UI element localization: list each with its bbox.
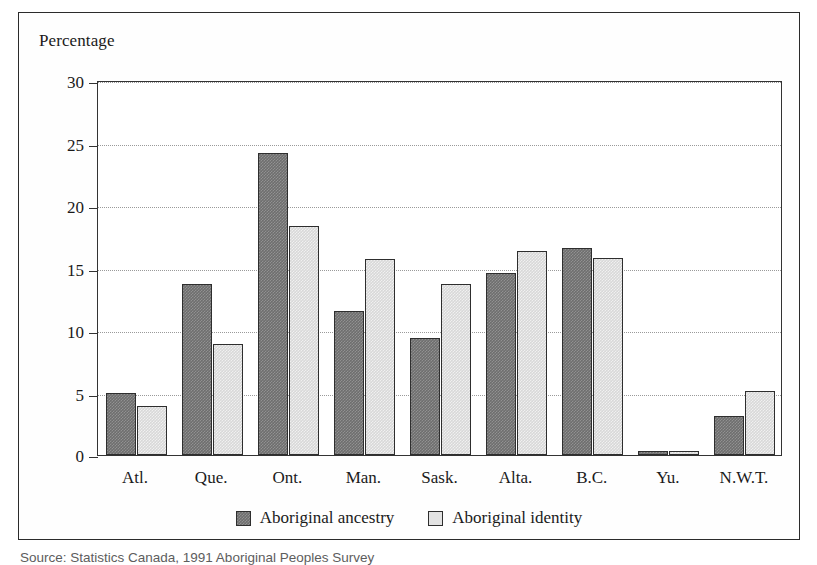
bar-identity	[593, 258, 623, 456]
x-axis-label: B.C.	[576, 468, 607, 488]
x-axis-label: Que.	[195, 468, 228, 488]
y-axis-tick	[89, 208, 98, 209]
y-axis-tick-label: 20	[67, 198, 84, 218]
bar-ancestry	[182, 284, 212, 455]
bar-ancestry	[334, 311, 364, 455]
legend-entry: Aboriginal ancestry	[236, 508, 395, 528]
light-swatch	[428, 511, 443, 526]
y-axis-tick-label: 10	[67, 323, 84, 343]
bar-ancestry	[638, 451, 668, 455]
y-axis-tick-label: 25	[67, 136, 84, 156]
bar-ancestry	[410, 338, 440, 456]
y-axis-tick-label: 5	[76, 386, 85, 406]
legend-entry: Aboriginal identity	[428, 508, 582, 528]
bar-identity	[365, 259, 395, 455]
bar-identity	[213, 344, 243, 455]
y-axis-tick-label: 0	[76, 447, 85, 467]
x-axis-label: Ont.	[272, 468, 302, 488]
x-axis-label: Sask.	[421, 468, 457, 488]
figure-frame: Percentage 051015202530 Atl.Que.Ont.Man.…	[18, 12, 800, 540]
legend-label: Aboriginal ancestry	[260, 508, 395, 528]
x-axis-label: Atl.	[122, 468, 148, 488]
bar-ancestry	[486, 273, 516, 456]
bar-group	[410, 82, 471, 455]
y-axis-tick	[89, 457, 98, 458]
bar-group	[334, 82, 395, 455]
bar-ancestry	[258, 153, 288, 456]
bar-identity	[289, 226, 319, 455]
x-axis-label: Yu.	[656, 468, 679, 488]
y-axis-tick	[89, 83, 98, 84]
y-axis-tick	[89, 396, 98, 397]
bar-group	[106, 82, 167, 455]
y-axis-tick	[89, 333, 98, 334]
x-axis-label: N.W.T.	[720, 468, 769, 488]
y-axis-tick-label: 30	[67, 73, 84, 93]
source-note: Source: Statistics Canada, 1991 Aborigin…	[20, 550, 374, 565]
x-axis-label: Man.	[346, 468, 381, 488]
bar-group	[258, 82, 319, 455]
y-axis-tick	[89, 146, 98, 147]
bar-identity	[137, 406, 167, 455]
bar-group	[486, 82, 547, 455]
bar-group	[182, 82, 243, 455]
bar-group	[638, 82, 699, 455]
bar-group	[714, 82, 775, 455]
bar-ancestry	[714, 416, 744, 455]
bar-identity	[441, 284, 471, 455]
bar-group	[562, 82, 623, 455]
y-axis-title: Percentage	[39, 31, 115, 51]
plot-area: 051015202530	[97, 81, 782, 456]
bar-ancestry	[562, 248, 592, 456]
bar-identity	[517, 251, 547, 455]
bar-ancestry	[106, 393, 136, 456]
legend-label: Aboriginal identity	[452, 508, 582, 528]
bar-identity	[745, 391, 775, 455]
x-axis-label: Alta.	[499, 468, 533, 488]
y-axis-tick-label: 15	[67, 261, 84, 281]
bar-identity	[669, 451, 699, 455]
y-axis-tick	[89, 271, 98, 272]
dark-hatched-swatch	[236, 511, 251, 526]
chart-legend: Aboriginal ancestryAboriginal identity	[19, 508, 799, 528]
